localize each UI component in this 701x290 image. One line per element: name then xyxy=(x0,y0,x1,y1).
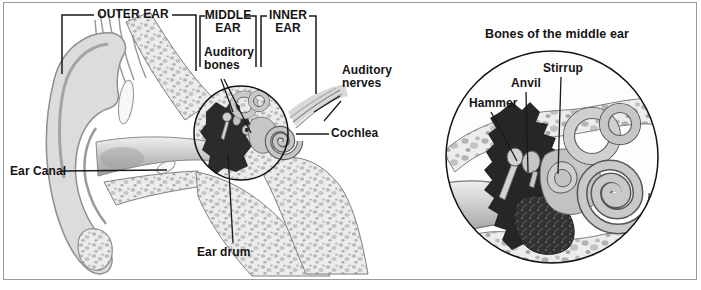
label-stirrup: Stirrup xyxy=(540,62,586,75)
ear-illustration xyxy=(0,0,701,290)
label-inner-ear: INNER EAR xyxy=(262,9,314,35)
auditory-nerve-art xyxy=(288,84,348,128)
label-cochlea: Cochlea xyxy=(331,127,378,140)
label-auditory-bones: Auditory bones xyxy=(204,46,262,72)
skull-bone-below-canal xyxy=(104,171,204,205)
label-ear-drum: Ear drum xyxy=(197,246,250,259)
ear-anatomy-figure: OUTER EAR MIDDLE EAR INNER EAR Auditory … xyxy=(0,0,701,290)
label-ear-canal: Ear Canal xyxy=(10,165,66,178)
inset-art xyxy=(440,51,666,270)
label-auditory-nerves: Auditory nerves xyxy=(342,64,406,90)
ear-canal-leader xyxy=(61,170,167,171)
label-hammer: Hammer xyxy=(469,97,515,110)
canal-shadow xyxy=(100,147,144,169)
label-middle-ear: MIDDLE EAR xyxy=(201,9,255,35)
label-anvil: Anvil xyxy=(510,77,542,90)
label-outer-ear: OUTER EAR xyxy=(92,8,174,21)
inset-title: Bones of the middle ear xyxy=(457,28,657,41)
